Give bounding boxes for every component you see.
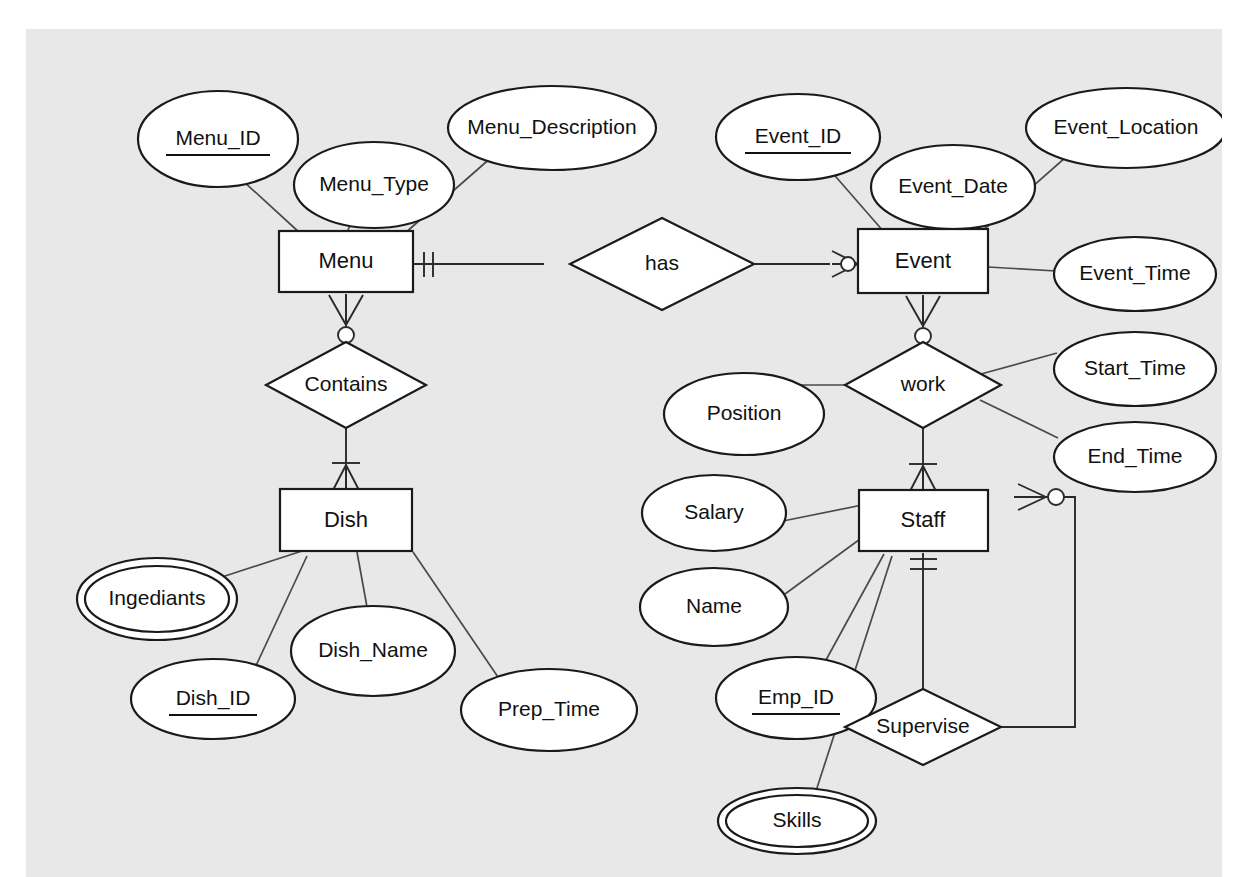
marker-supervise-staff-crowfoot <box>1018 484 1046 510</box>
attribute-event-time-label: Event_Time <box>1079 261 1190 285</box>
attribute-event-time[interactable]: Event_Time <box>1054 237 1216 311</box>
attribute-prep-time[interactable]: Prep_Time <box>461 669 637 751</box>
relationship-has[interactable]: has <box>570 218 754 310</box>
line-supervise-loop <box>1000 497 1075 727</box>
attribute-menu-type[interactable]: Menu_Type <box>294 142 454 228</box>
attribute-name[interactable]: Name <box>640 568 788 646</box>
relationship-supervise-label: Supervise <box>876 714 969 737</box>
attribute-name-label: Name <box>686 594 742 617</box>
attribute-menu-description[interactable]: Menu_Description <box>448 86 656 170</box>
marker-supervise-staff-circle <box>1048 489 1064 505</box>
entity-event[interactable]: Event <box>858 229 988 293</box>
attribute-emp-id-label: Emp_ID <box>758 685 834 709</box>
connector-start-time <box>981 353 1057 374</box>
attribute-ingediants-label: Ingediants <box>109 586 206 609</box>
attribute-position[interactable]: Position <box>664 373 824 455</box>
marker-event-has-circle <box>841 257 855 271</box>
attribute-menu-description-label: Menu_Description <box>467 115 636 139</box>
attribute-event-date[interactable]: Event_Date <box>871 145 1035 229</box>
entity-dish[interactable]: Dish <box>280 489 412 551</box>
attribute-menu-id[interactable]: Menu_ID <box>138 91 298 187</box>
attribute-position-label: Position <box>707 401 782 424</box>
entity-staff-label: Staff <box>901 507 947 532</box>
entity-dish-label: Dish <box>324 507 368 532</box>
attribute-ingediants[interactable]: Ingediants <box>77 558 237 640</box>
relationship-work[interactable]: work <box>845 342 1001 428</box>
attribute-event-location-label: Event_Location <box>1054 115 1199 139</box>
entity-event-label: Event <box>895 248 951 273</box>
relationship-work-label: work <box>900 372 946 395</box>
attribute-event-id[interactable]: Event_ID <box>716 94 880 180</box>
connector-event-time <box>988 267 1056 271</box>
relationship-contains-label: Contains <box>305 372 388 395</box>
attribute-end-time-label: End_Time <box>1088 444 1183 468</box>
entity-staff[interactable]: Staff <box>859 490 988 551</box>
attribute-event-id-label: Event_ID <box>755 124 841 148</box>
attribute-end-time[interactable]: End_Time <box>1054 422 1216 492</box>
entity-menu[interactable]: Menu <box>279 231 413 292</box>
attribute-dish-name[interactable]: Dish_Name <box>291 606 455 696</box>
relationship-contains[interactable]: Contains <box>266 342 426 428</box>
connector-ingediants <box>222 551 302 577</box>
attribute-skills-label: Skills <box>772 808 821 831</box>
diagram-canvas: Menu_ID Menu_Type Menu_Description Event… <box>26 29 1222 877</box>
connector-dish-name <box>357 552 367 607</box>
attributes-layer: Menu_ID Menu_Type Menu_Description Event… <box>77 86 1222 854</box>
entity-menu-label: Menu <box>318 248 373 273</box>
attribute-salary-label: Salary <box>684 500 744 523</box>
attribute-salary[interactable]: Salary <box>642 475 786 551</box>
attribute-skills[interactable]: Skills <box>718 788 876 854</box>
attribute-menu-type-label: Menu_Type <box>319 172 429 196</box>
attribute-prep-time-label: Prep_Time <box>498 697 600 721</box>
marker-menu-contains-circle <box>338 327 354 343</box>
attribute-dish-name-label: Dish_Name <box>318 638 428 662</box>
attribute-event-location[interactable]: Event_Location <box>1026 88 1222 168</box>
marker-menu-contains-crowfoot <box>329 295 363 325</box>
er-diagram-page: Menu_ID Menu_Type Menu_Description Event… <box>0 0 1250 877</box>
attribute-start-time[interactable]: Start_Time <box>1054 332 1216 406</box>
attribute-dish-id-label: Dish_ID <box>176 686 251 710</box>
attribute-menu-id-label: Menu_ID <box>175 126 260 150</box>
connector-end-time <box>980 400 1058 438</box>
marker-event-work-crowfoot <box>906 296 940 326</box>
er-diagram-svg: Menu_ID Menu_Type Menu_Description Event… <box>26 29 1222 877</box>
attribute-dish-id[interactable]: Dish_ID <box>131 659 295 739</box>
attribute-start-time-label: Start_Time <box>1084 356 1186 380</box>
relationship-has-label: has <box>645 251 679 274</box>
attribute-event-date-label: Event_Date <box>898 174 1008 198</box>
